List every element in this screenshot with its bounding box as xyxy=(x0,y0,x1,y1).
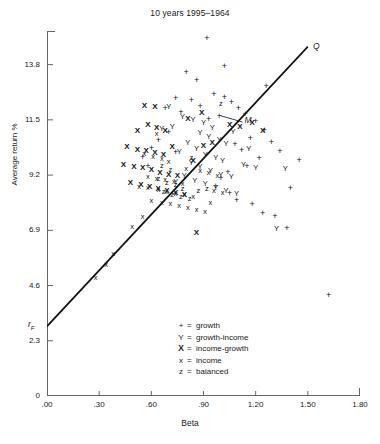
scatter-point-growth-income: Y xyxy=(283,165,288,173)
scatter-point-income-growth: X xyxy=(121,161,126,169)
scatter-point-income-growth: X xyxy=(140,165,145,173)
scatter-point-growth: + xyxy=(222,63,227,71)
legend-item-income-growth: X=income-growth xyxy=(175,343,248,355)
scatter-point-balanced: z xyxy=(156,175,160,183)
scatter-point-growth-income: Y xyxy=(213,154,218,162)
scatter-point-growth-income: Y xyxy=(198,129,203,137)
scatter-point-growth: + xyxy=(250,201,255,209)
legend-item-income: x=income xyxy=(175,355,248,367)
scatter-point-income-growth: X xyxy=(142,102,147,110)
scatter-point-income: x xyxy=(203,208,207,216)
legend-label-balanced: balanced xyxy=(196,366,228,378)
scatter-point-income: x xyxy=(149,197,153,205)
legend-symbol-income: x xyxy=(175,355,187,367)
x-tick-label: .30 xyxy=(79,400,119,409)
scatter-point-balanced: z xyxy=(196,188,200,196)
scatter-point-growth: + xyxy=(248,135,253,143)
scatter-point-growth: + xyxy=(232,141,237,149)
legend-equals: = xyxy=(187,355,196,367)
legend-item-growth-income: Y=growth-income xyxy=(175,332,248,344)
scatter-point-income-growth: X xyxy=(135,127,140,135)
legend-item-growth: +=growth xyxy=(175,320,248,332)
scatter-point-growth-income: Y xyxy=(253,164,258,172)
scatter-point-income-growth: X xyxy=(201,142,206,150)
scatter-point-growth-income: Y xyxy=(203,151,208,159)
scatter-point-growth: + xyxy=(234,198,239,206)
scatter-point-income-growth: X xyxy=(163,127,168,135)
scatter-point-growth: + xyxy=(236,105,241,113)
scatter-point-balanced: z xyxy=(188,195,192,203)
legend-equals: = xyxy=(187,343,196,355)
scatter-point-income: x xyxy=(141,213,145,221)
legend-symbol-income-growth: X xyxy=(175,343,187,355)
legend-symbol-balanced: z xyxy=(175,366,187,378)
scatter-point-income: x xyxy=(137,183,141,191)
scatter-point-income: x xyxy=(184,165,188,173)
scatter-point-growth: + xyxy=(204,36,209,44)
scatter-point-growth: + xyxy=(326,293,331,301)
x-tick-label: 1.20 xyxy=(236,400,276,409)
annotation-m: M xyxy=(245,115,252,125)
scatter-point-income: x xyxy=(209,200,213,208)
scatter-point-income-growth: X xyxy=(227,121,232,129)
scatter-point-income-growth: X xyxy=(210,140,215,148)
scatter-point-income: x xyxy=(186,204,190,212)
scatter-point-income: x xyxy=(191,193,195,201)
y-tick-label: 13.8 xyxy=(6,60,40,69)
scatter-point-growth-income: Y xyxy=(217,137,222,145)
scatter-point-income: x xyxy=(216,172,220,180)
scatter-point-income: x xyxy=(207,169,211,177)
scatter-point-growth: + xyxy=(239,147,244,155)
y-tick-label: 2.3 xyxy=(6,336,40,345)
scatter-point-growth-income: Y xyxy=(229,174,234,182)
legend-equals: = xyxy=(187,332,196,344)
x-tick-label: .00 xyxy=(27,400,67,409)
scatter-point-growth-income: Y xyxy=(220,157,225,165)
scatter-point-balanced: z xyxy=(162,189,166,197)
scatter-point-growth: + xyxy=(229,99,234,107)
scatter-point-growth: + xyxy=(156,138,161,146)
scatter-point-growth-income: Y xyxy=(192,177,197,185)
y-tick-label: 0 xyxy=(6,391,40,400)
scatter-point-income: x xyxy=(151,153,155,161)
scatter-point-balanced: z xyxy=(160,162,164,170)
scatter-point-income: x xyxy=(94,274,98,282)
scatter-point-growth-income: Y xyxy=(224,140,229,148)
x-tick-label: .90 xyxy=(184,400,224,409)
scatter-point-growth-income: Y xyxy=(191,117,196,125)
scatter-point-income: x xyxy=(165,188,169,196)
legend-label-income-growth: income-growth xyxy=(196,343,248,355)
scatter-point-growth-income: Y xyxy=(246,145,251,153)
scatter-point-income-growth: X xyxy=(135,146,140,154)
scatter-point-balanced: z xyxy=(174,181,178,189)
x-tick-label: 1.50 xyxy=(288,400,328,409)
scatter-point-growth: + xyxy=(257,156,262,164)
y-tick-label: 11.5 xyxy=(6,115,40,124)
scatter-point-growth-income: Y xyxy=(231,129,236,137)
scatter-point-growth: + xyxy=(296,157,301,165)
scatter-point-income: x xyxy=(104,261,108,269)
scatter-point-income: x xyxy=(160,199,164,207)
scatter-point-income: x xyxy=(212,187,216,195)
x-tick-label: .60 xyxy=(131,400,171,409)
scatter-point-growth: + xyxy=(194,78,199,86)
scatter-point-income: x xyxy=(146,173,150,181)
scatter-point-growth: + xyxy=(269,139,274,147)
scatter-point-growth: + xyxy=(284,225,289,233)
scatter-point-income: x xyxy=(143,150,147,158)
x-axis-label: Beta xyxy=(0,418,380,428)
legend-symbol-growth: + xyxy=(175,320,187,332)
scatter-point-income: x xyxy=(198,168,202,176)
legend-label-income: income xyxy=(196,355,222,367)
scatter-point-income-growth: X xyxy=(185,115,190,123)
legend-symbol-growth-income: Y xyxy=(175,332,187,344)
scatter-point-growth: + xyxy=(277,148,282,156)
scatter-point-income: x xyxy=(156,186,160,194)
scatter-point-balanced: z xyxy=(219,100,223,108)
scatter-point-income: x xyxy=(221,189,225,197)
scatter-point-growth: + xyxy=(173,96,178,104)
scatter-point-growth: + xyxy=(183,69,188,77)
y-tick-label: 6.9 xyxy=(6,225,40,234)
scatter-point-growth: + xyxy=(217,113,222,121)
scatter-point-income-growth: X xyxy=(124,144,129,152)
